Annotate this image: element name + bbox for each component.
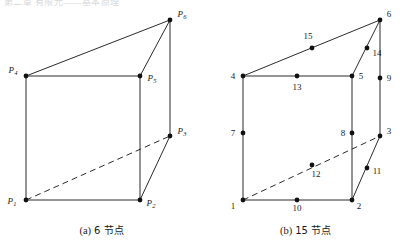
caption-panel-b: (b)15 节点 (204, 224, 407, 238)
node-label-P3: P3 (176, 126, 187, 137)
node-point-3 (378, 134, 383, 139)
node-label-main-13: 13 (293, 82, 303, 92)
node-point-P3 (168, 134, 173, 139)
node-label-P5: P5 (146, 73, 157, 84)
node-label-main-14: 14 (373, 48, 383, 58)
node-label-P6: P6 (176, 9, 187, 20)
node-label-P1: P1 (6, 196, 16, 207)
edge-hidden-P1-P3 (26, 136, 170, 200)
node-point-P4 (24, 74, 29, 79)
node-label-12: 12 (312, 169, 321, 179)
node-label-main-2: 2 (357, 201, 362, 211)
node-point-8 (350, 131, 355, 136)
node-label-sub-P3: 3 (182, 130, 187, 137)
node-label-sub-P1: 1 (13, 200, 16, 207)
node-point-6 (378, 18, 383, 23)
node-label-main-15: 15 (304, 31, 314, 41)
node-label-5: 5 (359, 71, 364, 81)
node-label-main-4: 4 (231, 71, 236, 81)
node-point-P5 (138, 74, 143, 79)
node-point-P2 (138, 198, 143, 203)
figure-panel-a: P1P2P3P4P5P6 (a)6 节点 (0, 0, 203, 248)
edge-P5-P6 (140, 20, 170, 76)
node-label-7: 7 (231, 128, 236, 138)
caption-text-b: 15 节点 (295, 225, 331, 236)
node-point-5 (350, 74, 355, 79)
node-label-main-8: 8 (341, 128, 346, 138)
node-label-main-10: 10 (293, 203, 303, 213)
node-point-15 (310, 46, 315, 51)
node-label-6: 6 (387, 9, 392, 19)
wedge-6-node-diagram: P1P2P3P4P5P6 (0, 0, 203, 222)
node-label-1: 1 (231, 201, 236, 211)
node-label-main-3: 3 (387, 126, 392, 136)
node-point-9 (378, 76, 383, 81)
node-point-7 (241, 131, 246, 136)
figure-root: 第二章 有限元——基本原理 P1P2P3P4P5P6 (a)6 节点 12345… (0, 0, 407, 248)
node-label-main-9: 9 (387, 73, 392, 83)
node-label-main-5: 5 (359, 71, 364, 81)
node-label-8: 8 (341, 128, 346, 138)
node-label-13: 13 (293, 82, 303, 92)
node-point-14 (365, 46, 370, 51)
node-point-10 (295, 198, 300, 203)
node-label-main-12: 12 (312, 169, 321, 179)
wedge-15-node-diagram: 123456789101112131415 (204, 0, 407, 222)
node-label-9: 9 (387, 73, 392, 83)
node-point-12 (310, 163, 315, 168)
node-label-sub-P5: 5 (153, 77, 157, 84)
figure-panel-b: 123456789101112131415 (b)15 节点 (204, 0, 407, 248)
caption-tag-b: (b) (280, 225, 292, 236)
node-label-P4: P4 (7, 65, 18, 76)
caption-tag-a: (a) (79, 225, 91, 236)
node-label-main-11: 11 (373, 166, 382, 176)
node-point-13 (295, 74, 300, 79)
node-label-P2: P2 (145, 198, 156, 209)
node-point-2 (350, 198, 355, 203)
node-label-sub-P6: 6 (183, 13, 187, 20)
node-label-14: 14 (373, 48, 383, 58)
caption-panel-a: (a)6 节点 (0, 224, 203, 238)
node-label-4: 4 (231, 71, 236, 81)
edge-P2-P3 (140, 136, 170, 200)
edge-P4-P6 (26, 20, 170, 76)
node-label-15: 15 (304, 31, 314, 41)
node-label-sub-P4: 4 (14, 69, 18, 76)
node-point-P1 (24, 198, 29, 203)
node-label-main-6: 6 (387, 9, 392, 19)
node-label-sub-P2: 2 (152, 202, 156, 209)
node-label-10: 10 (293, 203, 303, 213)
node-point-11 (365, 166, 370, 171)
edge-hidden-1-3 (243, 136, 380, 200)
node-label-3: 3 (387, 126, 392, 136)
node-point-4 (241, 74, 246, 79)
node-label-11: 11 (373, 166, 382, 176)
node-label-2: 2 (357, 201, 362, 211)
node-point-P6 (168, 18, 173, 23)
node-point-1 (241, 198, 246, 203)
node-label-main-7: 7 (231, 128, 236, 138)
node-label-main-1: 1 (231, 201, 236, 211)
caption-text-a: 6 节点 (94, 225, 124, 236)
